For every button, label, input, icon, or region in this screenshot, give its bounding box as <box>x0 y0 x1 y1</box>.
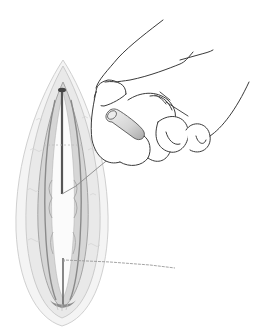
hand <box>91 20 249 165</box>
illustration-canvas <box>0 0 267 336</box>
capsule <box>106 109 145 140</box>
